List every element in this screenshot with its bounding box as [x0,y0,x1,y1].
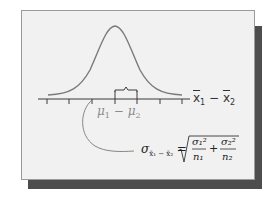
mean-difference-label: μ1 − μ2 [97,104,141,120]
std-dev-bracket [115,87,137,92]
term1-numerator: σ₁² [192,136,207,147]
formula-lhs: σx̄₁ − x̄₂ = [141,142,187,158]
axis-variable-label: x1 − x2 [193,91,235,107]
term1-denominator: n₁ [193,151,203,162]
axis-ticks [47,91,182,104]
term2-denominator: n₂ [222,151,232,162]
term2-numerator: σ₂² [221,136,236,147]
normal-curve [48,26,182,95]
plus-sign: + [209,142,218,155]
